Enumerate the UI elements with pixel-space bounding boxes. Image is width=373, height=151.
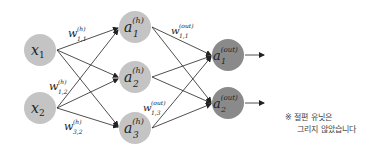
svg-text:(out): (out) (151, 99, 166, 106)
output-arrows (245, 55, 264, 103)
bias-note-line1: ※ 절편 유닛은 (285, 112, 332, 124)
edges-hidden-output (152, 27, 211, 128)
node-x2-sub: 2 (39, 108, 45, 118)
svg-text:1,2: 1,2 (58, 88, 68, 95)
node-a2out-base: a (213, 96, 221, 111)
node-a1out-sup: (out) (221, 46, 238, 54)
node-x2-base: x (31, 100, 39, 116)
node-a2h-base: a (124, 69, 132, 85)
weight-w32-h: w (h) 3,2 (64, 118, 83, 135)
svg-text:(h): (h) (77, 25, 86, 32)
node-a2out-sup: (out) (221, 94, 238, 102)
edge-a3h-a1out (152, 57, 211, 128)
node-a2out-sub: 2 (220, 105, 226, 114)
edge-x1-a2h (57, 50, 118, 77)
node-a1out-sub: 1 (221, 57, 226, 66)
node-a1out-base: a (213, 48, 221, 63)
input-layer: x1 x2 (24, 34, 56, 124)
node-x1-sub: 1 (39, 50, 45, 60)
svg-text:1,1: 1,1 (77, 35, 87, 42)
svg-text:(h): (h) (73, 118, 82, 125)
svg-text:1,3: 1,3 (151, 109, 161, 116)
weight-w11-out: w (out) 1,1 (171, 22, 194, 39)
edge-x1-a1h (57, 28, 118, 50)
node-a3h-sup: (h) (132, 117, 143, 126)
output-layer: a(out) 1 a(out) 2 (212, 39, 244, 119)
node-a1h-sub: 1 (133, 29, 139, 39)
svg-text:1,1: 1,1 (179, 32, 189, 39)
node-a2h-sup: (h) (132, 66, 143, 75)
node-x1-base: x (31, 42, 39, 58)
node-a3h-sub: 3 (133, 130, 139, 140)
edge-a2h-a1out (152, 56, 211, 77)
node-a1h-sup: (h) (132, 16, 143, 25)
weight-w12-h: w (h) 1,2 (49, 78, 68, 95)
svg-text:(h): (h) (58, 78, 67, 85)
hidden-layer: a(h) 1 a(h) 2 a(h) 3 (119, 11, 151, 144)
weight-w11-h: w (h) 1,1 (68, 25, 87, 42)
weight-w13-out: w (out) 1,3 (143, 99, 166, 116)
edge-x2-a1h (57, 30, 118, 108)
node-a2h-sub: 2 (132, 79, 139, 89)
node-a1h-base: a (124, 19, 132, 35)
node-a3h-base: a (124, 120, 132, 136)
svg-text:3,2: 3,2 (73, 128, 83, 135)
svg-text:(out): (out) (179, 22, 194, 29)
bias-note-line2: 그리지 않았습니다 (297, 124, 356, 136)
edge-a3h-a2out (152, 104, 211, 128)
